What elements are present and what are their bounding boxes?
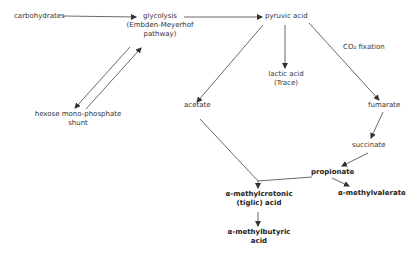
- node-hexose-monophosphate-shunt: hexose mono-phosphate shunt: [33, 110, 123, 128]
- tiglic-label-2: (tiglic) acid: [223, 199, 295, 208]
- glycolysis-sub-label-2: pathway): [125, 30, 195, 39]
- edge-label-co2-fixation: CO₂ fixation: [343, 43, 385, 52]
- edge-propionate-tiglic: [258, 177, 312, 181]
- node-acetate: acetate: [184, 101, 211, 110]
- edge-fumarate-succinate: [371, 112, 383, 138]
- pathway-diagram: carbohydrates glycolysis (Embden-Meyerho…: [0, 0, 413, 259]
- node-fumarate: fumarate: [368, 101, 400, 110]
- node-methylbutyric-acid: α-methylbutyric acid: [225, 228, 293, 246]
- edge-propionate-methylvalerate: [332, 178, 349, 186]
- hmp-label: hexose mono-phosphate: [33, 110, 123, 119]
- node-propionate: propionate: [311, 168, 354, 177]
- edge-glycolysis-hmp: [75, 47, 130, 108]
- lactic-label-2: (Trace): [266, 79, 306, 88]
- node-pyruvic-acid: pyruvic acid: [265, 12, 308, 21]
- node-methylvalerate: α-methylvalerate: [338, 189, 406, 198]
- glycolysis-sub-label: (Embden-Meyerhof: [125, 21, 195, 30]
- edge-pyruvic-acetate: [197, 25, 263, 102]
- hmp-label-2: shunt: [33, 119, 123, 128]
- glycolysis-label: glycolysis: [125, 12, 195, 21]
- edge-pyruvic-fumarate: [309, 23, 379, 100]
- node-glycolysis: glycolysis (Embden-Meyerhof pathway): [125, 12, 195, 39]
- butyric-label-2: acid: [225, 237, 293, 246]
- node-lactic-acid: lactic acid (Trace): [266, 70, 306, 88]
- tiglic-label: α-methylcrotonic: [223, 190, 295, 199]
- lactic-label: lactic acid: [266, 70, 306, 79]
- edges-layer: [0, 0, 413, 259]
- node-carbohydrates: carbohydrates: [14, 12, 65, 21]
- node-methylcrotonic-acid: α-methylcrotonic (tiglic) acid: [223, 190, 295, 208]
- edge-hmp-glycolysis: [86, 48, 141, 109]
- node-succinate: succinate: [352, 141, 386, 150]
- edge-acetate-tiglic: [200, 119, 258, 181]
- butyric-label: α-methylbutyric: [225, 228, 293, 237]
- edge-succinate-propionate: [342, 153, 368, 166]
